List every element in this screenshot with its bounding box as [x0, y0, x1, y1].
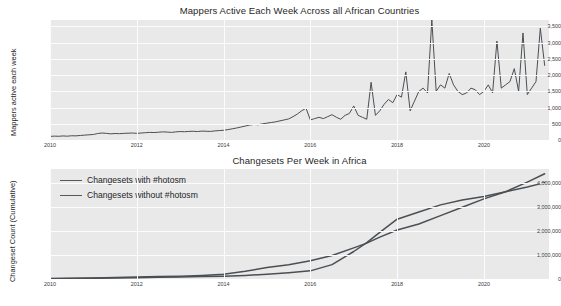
y-axis-label-top: Mappers active each week: [9, 48, 18, 136]
gridline-horizontal: [50, 207, 549, 208]
chart-panel-mappers-active: Mappers Active Each Week Across all Afri…: [0, 0, 561, 152]
gridline-horizontal: [50, 43, 549, 44]
y-tick-label: 3,500: [515, 23, 561, 29]
gridline-vertical: [50, 20, 51, 140]
x-tick-label: 2014: [218, 281, 230, 287]
x-tick-label: 2012: [131, 281, 143, 287]
gridline-vertical: [224, 169, 225, 279]
gridline-vertical: [484, 20, 485, 140]
legend-swatch-without-hotosm: [60, 195, 82, 196]
y-tick-label: 1,000,000: [515, 252, 561, 258]
y-tick-label: 2,000,000: [515, 228, 561, 234]
y-tick-label: 0: [515, 276, 561, 282]
legend-swatch-with-hotosm: [60, 180, 82, 181]
x-tick-label: 2010: [44, 142, 56, 148]
gridline-horizontal: [50, 231, 549, 232]
gridline-horizontal: [50, 124, 549, 125]
gridline-horizontal: [50, 108, 549, 109]
y-tick-label: 2,500: [515, 56, 561, 62]
gridline-horizontal: [50, 91, 549, 92]
gridline-horizontal: [50, 75, 549, 76]
y-axis-label-bottom: Changeset Count (Cumulative): [8, 181, 17, 282]
y-tick-label: 4,000,000: [515, 180, 561, 186]
x-tick-label: 2018: [391, 142, 403, 148]
gridline-vertical: [50, 169, 51, 279]
y-tick-label: 1,500: [515, 88, 561, 94]
x-tick-label: 2012: [131, 142, 143, 148]
gridline-vertical: [397, 169, 398, 279]
y-tick-label: 1,000: [515, 105, 561, 111]
gridline-horizontal: [50, 59, 549, 60]
gridline-vertical: [310, 169, 311, 279]
y-tick-label: 3,000,000: [515, 204, 561, 210]
x-tick-label: 2020: [478, 142, 490, 148]
y-tick-label: 500: [515, 121, 561, 127]
gridline-vertical: [137, 169, 138, 279]
gridline-horizontal: [50, 255, 549, 256]
legend-item-without-hotosm[interactable]: Changesets without #hotosm: [60, 190, 198, 200]
chart-panel-changesets: Changesets Per Week in Africa Changeset …: [0, 152, 561, 306]
x-tick-label: 2014: [218, 142, 230, 148]
gridline-vertical: [224, 20, 225, 140]
series-path-0: [50, 20, 545, 136]
gridline-horizontal: [50, 26, 549, 27]
x-tick-label: 2018: [391, 281, 403, 287]
x-tick-label: 2016: [304, 281, 316, 287]
figure: Mappers Active Each Week Across all Afri…: [0, 0, 561, 306]
chart-title-top: Mappers Active Each Week Across all Afri…: [50, 5, 549, 16]
y-tick-label: 3,000: [515, 40, 561, 46]
series-line-mappers: [50, 20, 549, 140]
legend: Changesets with #hotosm Changesets witho…: [60, 175, 198, 200]
x-tick-label: 2016: [304, 142, 316, 148]
gridline-vertical: [137, 20, 138, 140]
legend-label-without-hotosm: Changesets without #hotosm: [87, 190, 198, 200]
gridline-vertical: [484, 169, 485, 279]
y-tick-label: 0: [515, 137, 561, 143]
x-tick-label: 2020: [478, 281, 490, 287]
x-tick-label: 2010: [44, 281, 56, 287]
chart-title-bottom: Changesets Per Week in Africa: [50, 155, 549, 166]
gridline-vertical: [397, 20, 398, 140]
plot-area-bottom: Changesets with #hotosm Changesets witho…: [50, 169, 549, 279]
y-tick-label: 2,000: [515, 72, 561, 78]
plot-area-top: [50, 20, 549, 140]
gridline-vertical: [310, 20, 311, 140]
gridline-horizontal: [50, 183, 549, 184]
